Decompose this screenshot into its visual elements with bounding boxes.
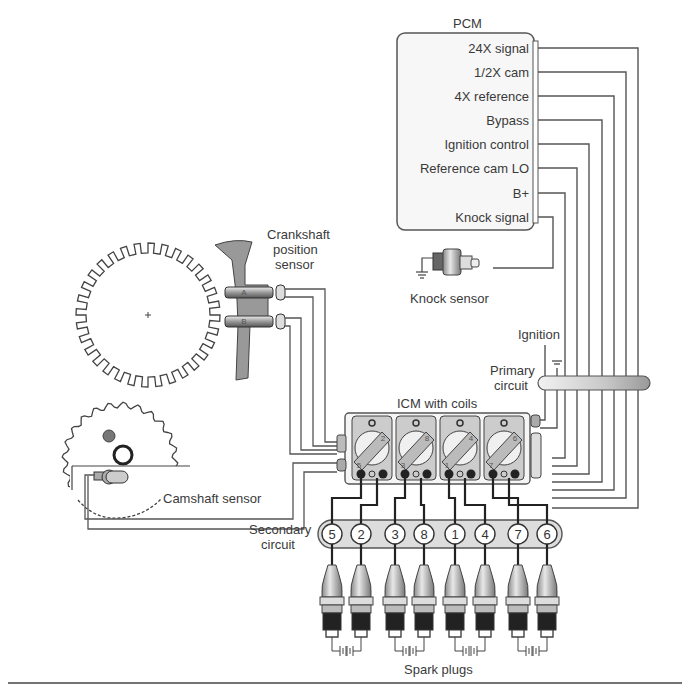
icm-label: ICM with coils bbox=[397, 396, 477, 411]
spark-plug bbox=[410, 565, 436, 656]
pcm-signal-bypass: Bypass bbox=[389, 113, 529, 128]
svg-text:4: 4 bbox=[469, 434, 474, 443]
svg-text:1: 1 bbox=[445, 461, 450, 470]
knock-sensor-label: Knock sensor bbox=[410, 291, 489, 306]
ignition-coil: 67 bbox=[484, 416, 524, 480]
pcm-signal-24x: 24X signal bbox=[389, 41, 529, 56]
spark-plug bbox=[383, 565, 409, 656]
pcm-signal-ref-cam-lo: Reference cam LO bbox=[389, 161, 529, 176]
secondary-label-2: circuit bbox=[261, 537, 295, 552]
pcm-signal-4x-ref: 4X reference bbox=[389, 89, 529, 104]
cylinder-number: 1 bbox=[451, 527, 458, 542]
svg-text:B: B bbox=[241, 317, 246, 326]
ignition-diagram: A B 25834167 52 bbox=[0, 0, 682, 696]
svg-text:5: 5 bbox=[357, 461, 362, 470]
svg-text:8: 8 bbox=[425, 434, 430, 443]
cylinder-number: 7 bbox=[514, 527, 521, 542]
spark-plugs-label: Spark plugs bbox=[404, 662, 473, 677]
crankshaft-label-1: Crankshaft bbox=[267, 227, 330, 242]
crankshaft-label-2: position bbox=[273, 242, 318, 257]
pcm-title: PCM bbox=[453, 16, 482, 31]
svg-text:3: 3 bbox=[401, 461, 406, 470]
cylinder-number: 2 bbox=[357, 527, 364, 542]
spark-plug bbox=[506, 565, 532, 656]
cylinder-number: 6 bbox=[543, 527, 550, 542]
spark-plug bbox=[347, 565, 373, 656]
knock-sensor bbox=[416, 249, 479, 278]
crankshaft-label-3: sensor bbox=[275, 257, 314, 272]
primary-label-1: Primary bbox=[490, 363, 535, 378]
icm-module: 25834167 bbox=[337, 413, 541, 484]
ignition-coil: 25 bbox=[352, 416, 392, 480]
ignition-coil: 83 bbox=[396, 416, 436, 480]
camshaft-sensor-label: Camshaft sensor bbox=[163, 491, 261, 506]
secondary-label-1: Secondary bbox=[249, 522, 311, 537]
primary-circuit-tube bbox=[538, 376, 650, 390]
spark-plug bbox=[443, 565, 469, 656]
pcm-signal-ignition-control: Ignition control bbox=[389, 137, 529, 152]
cylinder-number: 5 bbox=[328, 527, 335, 542]
cylinder-number: 8 bbox=[420, 527, 427, 542]
pcm-signal-knock: Knock signal bbox=[389, 210, 529, 225]
spark-plug bbox=[533, 565, 559, 656]
cylinder-number: 3 bbox=[391, 527, 398, 542]
pcm-signal-half-cam: 1/2X cam bbox=[389, 65, 529, 80]
ignition-coil: 41 bbox=[440, 416, 480, 480]
spark-plug bbox=[471, 565, 497, 656]
svg-text:A: A bbox=[241, 288, 247, 297]
pcm-signal-b-plus: B+ bbox=[389, 186, 529, 201]
cylinder-number: 4 bbox=[481, 527, 488, 542]
crankshaft-reluctor-wheel bbox=[76, 243, 220, 387]
svg-text:6: 6 bbox=[513, 434, 518, 443]
crank-sensor-wires bbox=[285, 289, 337, 454]
svg-text:7: 7 bbox=[489, 461, 494, 470]
ignition-label: Ignition bbox=[518, 327, 560, 342]
svg-text:2: 2 bbox=[381, 434, 386, 443]
spark-plug bbox=[320, 565, 346, 656]
primary-label-2: circuit bbox=[494, 378, 528, 393]
spark-plugs bbox=[320, 565, 559, 656]
